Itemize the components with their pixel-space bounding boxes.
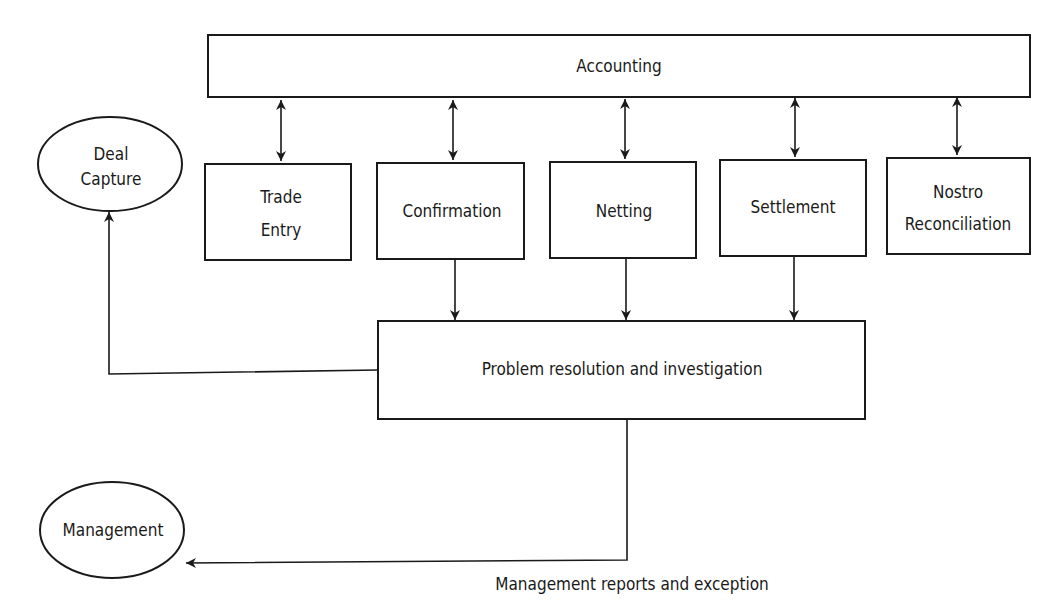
- management-reports-label: Management reports and exception: [495, 574, 768, 594]
- accounting-label: Accounting: [576, 56, 661, 76]
- process-flow-diagram: Accounting Trade Entry Confirmation Nett…: [0, 0, 1061, 605]
- settlement-label: Settlement: [751, 197, 836, 217]
- confirmation-label: Confirmation: [403, 201, 502, 221]
- deal-capture-label-2: Capture: [81, 169, 142, 189]
- deal-capture-node: [38, 117, 182, 211]
- nostro-label-1: Nostro: [933, 182, 983, 202]
- management-label: Management: [63, 520, 164, 540]
- nostro-label-2: Reconciliation: [905, 214, 1012, 234]
- trade-entry-label-1: Trade: [259, 187, 302, 207]
- nostro-box: [887, 158, 1030, 254]
- netting-label: Netting: [596, 201, 653, 221]
- trade-entry-box: [205, 164, 351, 260]
- deal-capture-label-1: Deal: [94, 144, 129, 164]
- trade-entry-label-2: Entry: [261, 220, 302, 240]
- problem-resolution-label: Problem resolution and investigation: [482, 359, 763, 379]
